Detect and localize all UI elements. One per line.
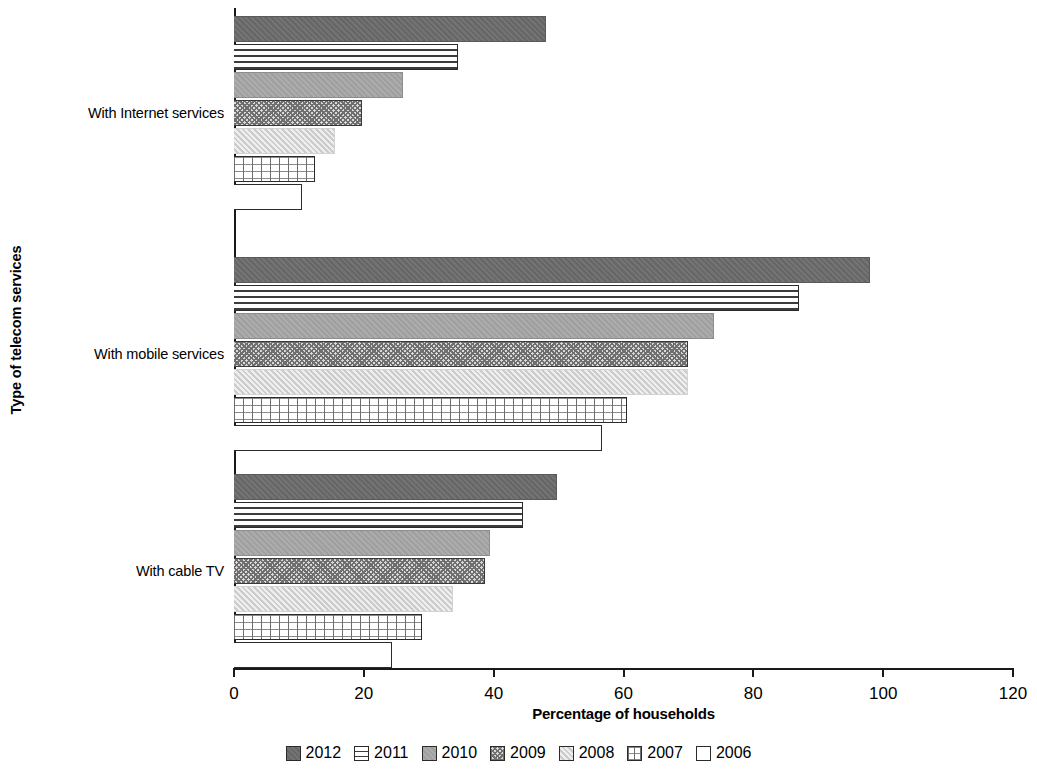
group-label: With mobile services bbox=[94, 346, 224, 362]
bar-2010-1 bbox=[234, 313, 714, 339]
bar-group: With mobile services bbox=[234, 257, 1013, 451]
bar-2006-2 bbox=[234, 642, 392, 668]
bar-row bbox=[234, 614, 1013, 640]
y-axis-title-text: Type of telecom services bbox=[7, 246, 23, 415]
bar-row bbox=[234, 128, 1013, 154]
group-label: With cable TV bbox=[136, 563, 224, 579]
x-tick-label: 0 bbox=[229, 684, 238, 704]
bar-2011-0 bbox=[234, 44, 458, 70]
bar-row bbox=[234, 16, 1013, 42]
legend-swatch-icon bbox=[490, 746, 505, 761]
group-label: With Internet services bbox=[88, 105, 224, 121]
bar-row bbox=[234, 257, 1013, 283]
bar-2009-2 bbox=[234, 558, 485, 584]
bar-group: With Internet services bbox=[234, 16, 1013, 210]
x-tick bbox=[752, 668, 754, 677]
bar-2006-1 bbox=[234, 425, 602, 451]
x-tick-label: 100 bbox=[869, 684, 897, 704]
bar-group: With cable TV bbox=[234, 474, 1013, 668]
x-tick bbox=[233, 668, 235, 677]
legend-item-2009[interactable]: 2009 bbox=[490, 744, 546, 762]
x-tick-label: 80 bbox=[744, 684, 763, 704]
bar-2012-0 bbox=[234, 16, 546, 42]
legend-label: 2012 bbox=[306, 744, 342, 762]
bar-chart: Type of telecom services With Internet s… bbox=[0, 0, 1037, 778]
x-tick bbox=[363, 668, 365, 677]
bar-2010-2 bbox=[234, 530, 490, 556]
bar-row bbox=[234, 642, 1013, 668]
bar-row bbox=[234, 474, 1013, 500]
legend-item-2011[interactable]: 2011 bbox=[354, 744, 408, 762]
x-tick bbox=[882, 668, 884, 677]
legend-item-2012[interactable]: 2012 bbox=[286, 744, 342, 762]
legend-swatch-icon bbox=[559, 746, 574, 761]
bar-row bbox=[234, 156, 1013, 182]
legend-item-2008[interactable]: 2008 bbox=[559, 744, 615, 762]
legend-swatch-icon bbox=[286, 746, 301, 761]
bar-2007-0 bbox=[234, 156, 315, 182]
legend-swatch-icon bbox=[627, 746, 642, 761]
bar-row bbox=[234, 586, 1013, 612]
x-tick bbox=[623, 668, 625, 677]
x-tick-label: 120 bbox=[999, 684, 1027, 704]
bar-2009-1 bbox=[234, 341, 688, 367]
bar-row bbox=[234, 285, 1013, 311]
legend: 2012201120102009200820072006 bbox=[0, 744, 1037, 762]
bar-row bbox=[234, 341, 1013, 367]
bar-row bbox=[234, 425, 1013, 451]
bar-row bbox=[234, 558, 1013, 584]
bar-2007-2 bbox=[234, 614, 422, 640]
x-axis-title-text: Percentage of households bbox=[532, 705, 715, 722]
bar-2008-1 bbox=[234, 369, 688, 395]
bar-row bbox=[234, 313, 1013, 339]
legend-item-2007[interactable]: 2007 bbox=[627, 744, 683, 762]
bar-2009-0 bbox=[234, 100, 362, 126]
bar-row bbox=[234, 397, 1013, 423]
bar-row bbox=[234, 184, 1013, 210]
bar-2011-2 bbox=[234, 502, 523, 528]
x-axis-title: Percentage of households bbox=[234, 705, 1013, 722]
bar-2006-0 bbox=[234, 184, 302, 210]
legend-item-2006[interactable]: 2006 bbox=[696, 744, 752, 762]
legend-item-2010[interactable]: 2010 bbox=[422, 744, 478, 762]
x-tick bbox=[1012, 668, 1014, 677]
legend-label: 2008 bbox=[579, 744, 615, 762]
legend-swatch-icon bbox=[696, 746, 711, 761]
legend-swatch-icon bbox=[354, 746, 369, 761]
bar-2011-1 bbox=[234, 285, 799, 311]
legend-label: 2007 bbox=[647, 744, 683, 762]
bar-2007-1 bbox=[234, 397, 627, 423]
x-tick bbox=[493, 668, 495, 677]
bar-row bbox=[234, 100, 1013, 126]
x-tick-label: 40 bbox=[484, 684, 503, 704]
plot-area: With Internet servicesWith mobile servic… bbox=[234, 8, 1013, 668]
legend-label: 2009 bbox=[510, 744, 546, 762]
bar-row bbox=[234, 72, 1013, 98]
bar-2010-0 bbox=[234, 72, 403, 98]
legend-label: 2011 bbox=[374, 744, 408, 762]
bar-row bbox=[234, 530, 1013, 556]
bar-2012-1 bbox=[234, 257, 870, 283]
legend-label: 2010 bbox=[442, 744, 478, 762]
x-tick-label: 60 bbox=[614, 684, 633, 704]
bar-row bbox=[234, 369, 1013, 395]
bar-row bbox=[234, 502, 1013, 528]
bar-2008-2 bbox=[234, 586, 453, 612]
y-axis-title: Type of telecom services bbox=[2, 0, 28, 660]
bar-2012-2 bbox=[234, 474, 557, 500]
bar-2008-0 bbox=[234, 128, 335, 154]
legend-swatch-icon bbox=[422, 746, 437, 761]
x-tick-label: 20 bbox=[354, 684, 373, 704]
bar-row bbox=[234, 44, 1013, 70]
legend-label: 2006 bbox=[716, 744, 752, 762]
